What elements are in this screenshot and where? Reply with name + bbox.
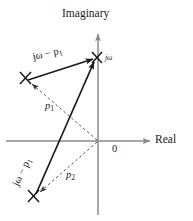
jw-point-marker — [92, 52, 102, 63]
pole-p2-label-subscript: 2 — [71, 173, 75, 182]
jw-point-label: jω — [105, 54, 112, 62]
imaginary-axis-label: Imaginary — [62, 8, 109, 20]
dashed-vector-p1 — [32, 84, 97, 140]
pole-p1-label: p1 — [45, 101, 54, 113]
pole-p1-label-subscript: 1 — [50, 104, 54, 113]
complex-plane-diagram: Imaginary Real 0 jω jω − p1 jω − p1 p1 p… — [0, 0, 193, 221]
pole-p2-label: p2 — [66, 170, 75, 182]
origin-label: 0 — [112, 144, 117, 155]
real-axis-label: Real — [155, 134, 176, 146]
diagram-canvas — [0, 0, 193, 221]
pole-marker-p2 — [28, 190, 39, 202]
vector-p2-to-jw — [36, 62, 94, 194]
pole-marker-p1 — [20, 72, 31, 84]
